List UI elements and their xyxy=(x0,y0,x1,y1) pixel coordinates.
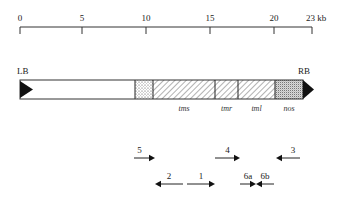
right-border-triangle-icon xyxy=(303,80,314,99)
primer-6a: 6a xyxy=(240,171,256,187)
primer-label: 3 xyxy=(291,145,296,155)
primer-1: 1 xyxy=(187,171,215,187)
primer-5: 5 xyxy=(134,145,155,161)
t-dna-bar xyxy=(20,80,314,99)
primer-4: 4 xyxy=(215,145,240,161)
primer-6b: 6b xyxy=(256,171,274,187)
scale-tick-label: 23 kb xyxy=(306,13,327,23)
gene-label-tmr: tmr xyxy=(221,104,233,113)
t-dna-map: 0510152023 kb LB RB tmstmrtmlnos 543216a… xyxy=(0,0,343,199)
arrow-left-icon xyxy=(155,181,161,187)
arrow-left-icon xyxy=(276,155,282,161)
scale-tick-label: 5 xyxy=(80,13,85,23)
scale-tick-label: 15 xyxy=(206,13,216,23)
primer-label: 6a xyxy=(244,171,253,181)
gene-labels: tmstmrtmlnos xyxy=(178,104,294,113)
segment-blank xyxy=(20,80,135,99)
segment-tml xyxy=(238,80,275,99)
gene-label-nos: nos xyxy=(283,104,294,113)
scale-bar: 0510152023 kb xyxy=(18,13,327,34)
left-border-label: LB xyxy=(17,66,29,76)
arrow-left-icon xyxy=(256,181,262,187)
primer-3: 3 xyxy=(276,145,300,161)
scale-tick-label: 10 xyxy=(142,13,152,23)
primer-arrows: 543216a6b xyxy=(134,145,300,187)
segment-tmr xyxy=(215,80,238,99)
arrow-right-icon xyxy=(209,181,215,187)
primer-label: 4 xyxy=(225,145,230,155)
arrow-right-icon xyxy=(250,181,256,187)
right-border-label: RB xyxy=(298,66,310,76)
primer-label: 6b xyxy=(261,171,271,181)
segment-tms xyxy=(153,80,215,99)
primer-label: 1 xyxy=(199,171,204,181)
scale-tick-label: 20 xyxy=(270,13,280,23)
primer-2: 2 xyxy=(155,171,183,187)
scale-tick-label: 0 xyxy=(18,13,23,23)
primer-label: 2 xyxy=(167,171,172,181)
segment-nos xyxy=(275,80,303,99)
gene-label-tms: tms xyxy=(178,104,189,113)
arrow-right-icon xyxy=(234,155,240,161)
gene-label-tml: tml xyxy=(251,104,262,113)
arrow-right-icon xyxy=(149,155,155,161)
primer-label: 5 xyxy=(137,145,142,155)
segment-dots xyxy=(135,80,153,99)
